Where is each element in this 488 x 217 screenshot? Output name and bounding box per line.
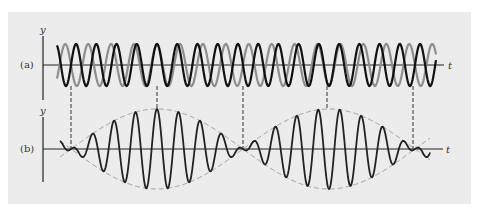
panel-a-label: (a) xyxy=(20,59,34,70)
panel-b-y-label: y xyxy=(39,105,46,116)
panel-a-t-label: t xyxy=(448,60,453,71)
panel-b-t-label: t xyxy=(446,144,451,155)
beats-figure: y (a) t y (b) t xyxy=(0,0,488,217)
panel-b: y (b) t xyxy=(20,105,451,189)
panel-a-y-label: y xyxy=(39,24,46,35)
panel-b-label: (b) xyxy=(20,143,34,154)
panel-a: y (a) t xyxy=(20,24,453,100)
